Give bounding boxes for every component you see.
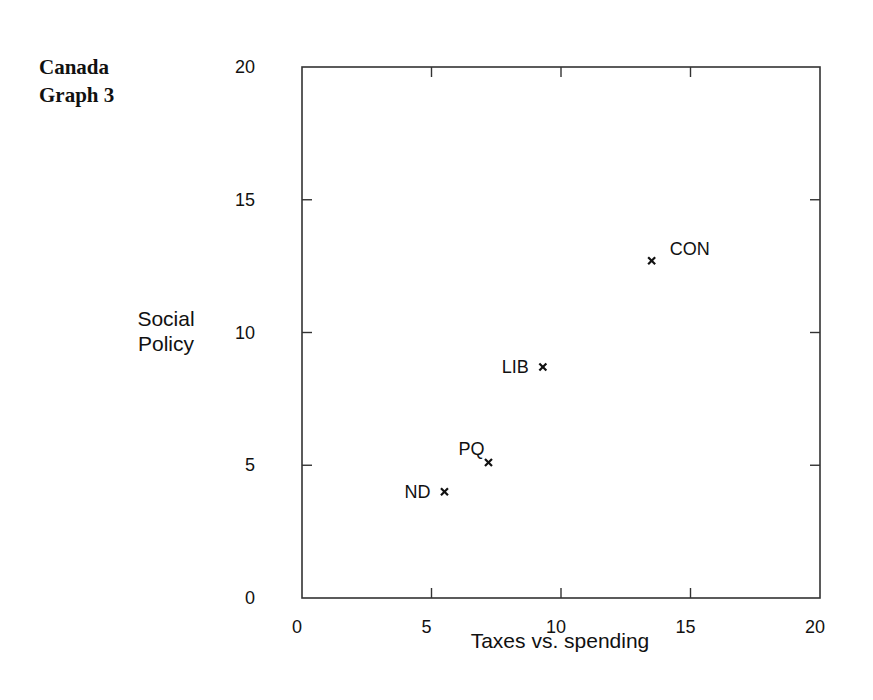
x-axis-ticks: 05101520 (292, 67, 825, 637)
x-tick-label: 10 (546, 617, 566, 637)
x-tick-label: 5 (421, 617, 431, 637)
x-tick-label: 20 (805, 617, 825, 637)
point-label: CON (670, 239, 710, 259)
x-tick-label: 0 (292, 617, 302, 637)
data-point-lib: LIB (502, 357, 547, 377)
scatter-plot: 05101520 05101520 CONLIBPQND (0, 0, 873, 700)
data-point-nd: ND (404, 482, 448, 502)
y-tick-label: 0 (245, 588, 255, 608)
x-tick-label: 15 (675, 617, 695, 637)
y-tick-label: 5 (245, 455, 255, 475)
point-label: PQ (458, 439, 484, 459)
y-tick-label: 20 (235, 57, 255, 77)
y-tick-label: 15 (235, 190, 255, 210)
point-label: LIB (502, 357, 529, 377)
data-point-pq: PQ (458, 439, 492, 467)
data-point-con: CON (648, 239, 710, 265)
data-points: CONLIBPQND (404, 239, 709, 502)
y-axis-ticks: 05101520 (235, 57, 820, 608)
plot-border (302, 67, 820, 598)
plot-frame (302, 67, 820, 598)
point-label: ND (404, 482, 430, 502)
y-tick-label: 10 (235, 323, 255, 343)
